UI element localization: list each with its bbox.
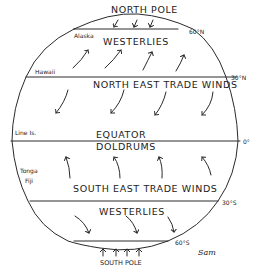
- tonga-label: Tonga: [19, 167, 38, 175]
- north-pole-label: NORTH POLE: [111, 4, 178, 15]
- alaska-label: Alaska: [74, 32, 94, 39]
- westerlies-north-arrows: [73, 50, 184, 71]
- line-islands-label: Line Is.: [15, 129, 36, 136]
- south-pole-label: SOUTH POLE: [100, 259, 142, 267]
- doldrums-label: DOLDRUMS: [96, 141, 156, 152]
- south-westerlies-label: WESTERLIES: [99, 206, 165, 217]
- wind-belts-diagram: NORTH POLE WESTERLIES NORTH EAST TRADE W…: [0, 0, 257, 268]
- ne-trade-winds-label: NORTH EAST TRADE WINDS: [93, 79, 238, 90]
- se-trade-winds-label: SOUTH EAST TRADE WINDS: [73, 183, 217, 194]
- lat-30s-label: 30°S: [222, 199, 237, 206]
- equator-label: EQUATOR: [96, 129, 146, 140]
- se-trade-winds-arrows: [66, 157, 211, 178]
- lat-60s-label: 60°S: [175, 239, 190, 246]
- lat-0-label: 0°: [243, 138, 250, 145]
- westerlies-south-arrows: [75, 216, 174, 233]
- lat-30n-label: 30°N: [231, 74, 246, 81]
- lat-60n-label: 60°N: [189, 28, 204, 35]
- ne-trade-winds-arrows: [56, 90, 213, 115]
- fiji-label: Fiji: [25, 177, 33, 185]
- polar-easterlies-north-arrows: [114, 20, 153, 27]
- north-westerlies-label: WESTERLIES: [103, 36, 169, 47]
- hawaii-label: Hawaii: [35, 68, 55, 75]
- signature: Sam: [198, 248, 216, 257]
